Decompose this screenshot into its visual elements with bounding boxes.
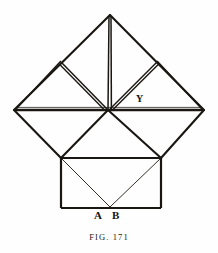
spoke-upper-right-group [110, 63, 159, 111]
spoke-upper-left-b [60, 64, 106, 110]
vertical-spoke-a [108, 16, 109, 110]
vertical-spoke-group [108, 16, 111, 110]
base-label-ab: A B [94, 210, 123, 221]
chord-right [157, 61, 202, 109]
figure-caption: FIG. 171 [0, 232, 218, 242]
spoke-upper-left-group [60, 63, 108, 111]
spoke-upper-left-a [62, 63, 108, 110]
diamond-bottom-right-edge [108, 110, 161, 158]
chord-left [16, 61, 61, 109]
spoke-upper-right-a [110, 63, 157, 110]
vertex-label-y: Y [136, 94, 143, 104]
horizontal-diagonal-group [15, 107, 203, 110]
figure-container: Y A B FIG. 171 [0, 0, 218, 253]
base-rectangle [61, 158, 161, 208]
diamond-bottom-left-edge [61, 110, 108, 158]
diamond-lower-left-edge [14, 110, 61, 158]
diamond-lower-right-edge [161, 110, 204, 158]
rect-diagonals [62, 159, 160, 207]
rect-diagonal-left [62, 159, 110, 207]
rect-diagonal-right [110, 159, 160, 207]
